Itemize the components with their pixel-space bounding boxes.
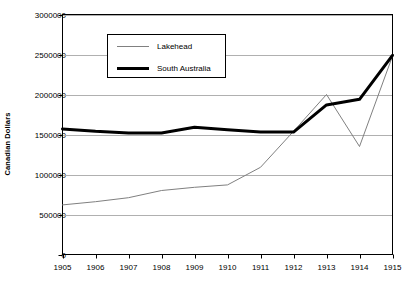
legend-swatch-line-icon	[117, 46, 149, 47]
line-chart: Canadian Dollars 05000001000000150000020…	[0, 0, 417, 288]
legend-swatch-line-icon	[117, 67, 149, 70]
y-axis-tick-marks	[59, 16, 63, 256]
chart-legend: Lakehead South Australia	[107, 34, 226, 78]
legend-item-south-australia: South Australia	[108, 57, 227, 79]
legend-label: South Australia	[157, 64, 211, 73]
x-axis-tick-marks	[64, 255, 394, 259]
legend-label: Lakehead	[157, 42, 192, 51]
legend-item-lakehead: Lakehead	[108, 35, 227, 57]
